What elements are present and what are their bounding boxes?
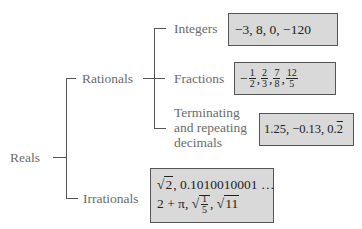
examples-integers: −3, 8, 0, −120 <box>228 13 338 46</box>
node-fractions: Fractions <box>174 71 224 86</box>
irrationals-line-1: √2, 0.1010010001 … <box>157 176 274 194</box>
integers-values: −3, 8, 0, −120 <box>235 22 311 38</box>
sqrt: √15 <box>192 194 210 215</box>
examples-irrationals: √2, 0.1010010001 … 2 + π, √15, √11 <box>150 168 274 223</box>
connector-rationals <box>66 78 76 79</box>
fraction: 12 <box>249 68 256 89</box>
node-irrationals: Irrationals <box>83 191 138 206</box>
connector-irrationals <box>66 198 78 199</box>
node-decimals: Terminating and repeating decimals <box>174 105 247 150</box>
sqrt: √2 <box>157 176 173 194</box>
fraction: 78 <box>273 68 280 89</box>
fraction: 125 <box>286 68 298 89</box>
irrationals-line-2: 2 + π, √15, √11 <box>157 194 239 215</box>
fraction: 23 <box>261 68 268 89</box>
sqrt: √11 <box>217 195 239 213</box>
connector-integers <box>154 28 166 29</box>
repeating-digit: 2 <box>337 122 343 137</box>
trunk-reals <box>66 78 67 199</box>
trunk-rationals <box>154 28 155 129</box>
node-integers: Integers <box>174 21 217 36</box>
node-reals: Reals <box>10 150 40 165</box>
examples-decimals: 1.25, −0.13, 0.2 <box>259 113 354 146</box>
node-rationals: Rationals <box>82 71 133 86</box>
connector-reals <box>53 157 66 158</box>
examples-fractions: − 12 , 23 , 78 , 125 <box>234 62 336 95</box>
connector-decimals <box>154 128 166 129</box>
